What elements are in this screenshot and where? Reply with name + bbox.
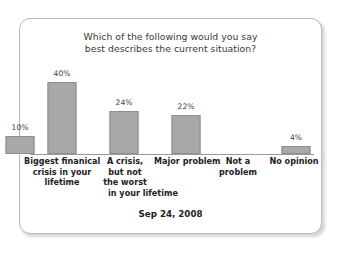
bar-2[interactable] <box>172 115 201 154</box>
bar-4[interactable] <box>282 146 311 154</box>
chart-title-line-2: best describes the current situation? <box>20 43 321 55</box>
category-label-3-line-1: problem <box>212 167 264 178</box>
bar-value-3: 10% <box>12 123 29 132</box>
bar-value-1: 24% <box>116 98 133 107</box>
category-label-3: Not a problem <box>212 156 264 177</box>
bar-group: 40% 24% 22% 10% 4% <box>20 58 323 154</box>
category-label-1-line-1: but not <box>98 167 152 178</box>
category-label-0: Biggest finanical crisis in your lifetim… <box>24 156 100 188</box>
category-label-0-line-1: crisis in your <box>24 167 100 178</box>
chart-baseline-axis <box>30 154 314 155</box>
category-label-1: A crisis, but not the worst in your life… <box>98 156 152 198</box>
bar-1[interactable] <box>110 111 139 154</box>
bar-slot-0: 40% <box>34 58 90 154</box>
category-label-2-line-0: Major problem <box>154 156 218 167</box>
category-label-0-line-2: lifetime <box>24 177 100 188</box>
category-label-1-line-2: the worst <box>98 177 152 188</box>
category-label-4-line-0: No opinion <box>266 156 322 167</box>
bar-value-2: 22% <box>178 102 195 111</box>
bar-slot-4: 4% <box>268 58 324 154</box>
bar-3[interactable] <box>6 136 35 154</box>
category-label-3-line-0: Not a <box>212 156 264 167</box>
bar-0[interactable] <box>48 82 77 154</box>
chart-title: Which of the following would you say bes… <box>20 31 321 56</box>
category-label-4: No opinion <box>266 156 322 167</box>
category-label-1-line-0: A crisis, <box>98 156 152 167</box>
chart-plot-area: 40% 24% 22% 10% 4% <box>20 59 323 155</box>
category-label-2: Major problem <box>154 156 218 167</box>
poll-result-card: Which of the following would you say bes… <box>19 18 322 234</box>
chart-date-caption: Sep 24, 2008 <box>20 209 321 219</box>
bar-slot-2: 22% <box>158 58 214 154</box>
category-label-1-line-3: in your lifetime <box>108 188 162 199</box>
category-label-0-line-0: Biggest finanical <box>24 156 100 167</box>
bar-value-0: 40% <box>54 69 71 78</box>
bar-slot-1: 24% <box>96 58 152 154</box>
bar-value-4: 4% <box>290 133 302 142</box>
chart-category-labels: Biggest finanical crisis in your lifetim… <box>20 156 323 206</box>
chart-title-line-1: Which of the following would you say <box>20 31 321 43</box>
